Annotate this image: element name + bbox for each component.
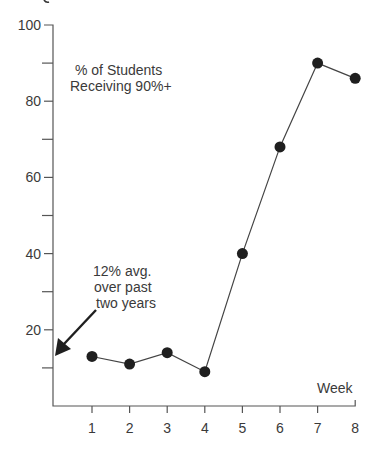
data-series [87, 58, 361, 378]
chart-title-line-1: % of Students [75, 62, 162, 78]
x-tick-label: 8 [351, 420, 359, 436]
x-tick-label: 3 [163, 420, 171, 436]
x-tick-label: 2 [126, 420, 134, 436]
y-tick-label: 100 [18, 17, 42, 33]
data-point [199, 366, 210, 377]
annotation-arrow-icon [55, 310, 96, 356]
x-axis-ticks: 12345678 [88, 406, 359, 436]
x-tick-label: 6 [276, 420, 284, 436]
y-tick-label: 20 [25, 322, 41, 338]
data-point [275, 141, 286, 152]
annotation-line-3: two years [96, 295, 156, 311]
series-line [92, 63, 355, 372]
data-point [87, 351, 98, 362]
data-point [350, 73, 361, 84]
line-chart: 20406080100 12345678 % of Students Recei… [0, 0, 384, 453]
x-tick-label: 1 [88, 420, 96, 436]
annotation-line-1: 12% avg. [93, 263, 151, 279]
x-tick-label: 7 [314, 420, 322, 436]
data-point [124, 359, 135, 370]
y-tick-label: 80 [25, 93, 41, 109]
y-axis-ticks: 20406080100 [18, 17, 53, 368]
annotation-line-2: over past [94, 279, 152, 295]
chart-title-line-2: Receiving 90%+ [70, 78, 172, 94]
data-point [312, 58, 323, 69]
x-axis-label: Week [317, 380, 354, 396]
x-tick-label: 5 [239, 420, 247, 436]
clipped-text-fragment [44, 0, 49, 2]
data-point [162, 347, 173, 358]
y-tick-label: 40 [25, 246, 41, 262]
y-tick-label: 60 [25, 169, 41, 185]
data-point [237, 248, 248, 259]
x-tick-label: 4 [201, 420, 209, 436]
